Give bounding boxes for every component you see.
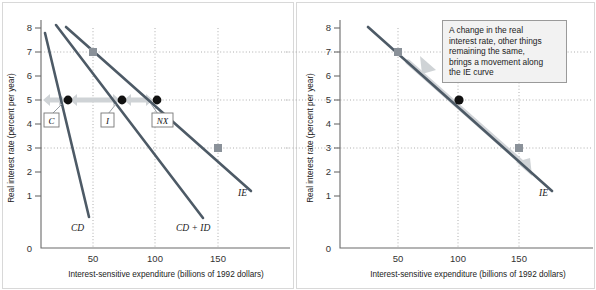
y-axis-title: Real interest rate (percent per year) <box>306 73 315 203</box>
x-axis-title: Interest-sensitive expenditure (billions… <box>370 270 566 279</box>
left-curves <box>45 25 251 218</box>
marker-ie-100-5 <box>153 96 162 105</box>
note-line-4: brings a movement along <box>449 57 560 68</box>
xtick-label-100: 100 <box>147 253 163 264</box>
ytick-label-8: 8 <box>27 22 32 33</box>
ytick-label-2: 2 <box>326 166 331 177</box>
component-label-i: I <box>101 113 114 127</box>
curve-label-cd-id: CD + ID <box>176 223 211 233</box>
ytick-label-5: 5 <box>27 94 32 105</box>
ytick-label-3: 3 <box>326 142 331 153</box>
xtick-label-100: 100 <box>450 253 466 264</box>
note-line-3: remaining the same, <box>449 46 560 57</box>
ytick-label-7: 7 <box>27 46 32 57</box>
marker-ie-50-7 <box>394 48 402 56</box>
ytick-label-1: 1 <box>27 190 32 201</box>
curve-cd-id[interactable] <box>56 25 203 218</box>
curve-label-ie: IE <box>237 188 247 198</box>
component-label-nx: NX <box>152 113 173 127</box>
ytick-label-0: 0 <box>27 243 32 254</box>
left-panel-plot: 8 7 6 5 4 3 2 1 0 50 100 150 Interest-se… <box>0 0 296 290</box>
left-grid <box>41 28 290 248</box>
y-axis-title: Real interest rate (percent per year) <box>7 73 16 203</box>
ytick-label-7: 7 <box>326 46 331 57</box>
component-leaders <box>52 104 158 114</box>
marker-cd-22-5 <box>64 96 73 105</box>
ytick-label-5: 5 <box>326 94 331 105</box>
x-axis-title: Interest-sensitive expenditure (billions… <box>68 270 264 279</box>
ytick-label-2: 2 <box>27 166 32 177</box>
left-axes <box>35 20 290 248</box>
marker-ie-150-3 <box>214 144 222 152</box>
leader-i <box>108 104 116 114</box>
note-line-5: the IE curve <box>449 67 560 78</box>
curve-label-ie: IE <box>538 188 548 198</box>
component-label-c: C <box>44 113 59 127</box>
ytick-label-1: 1 <box>326 190 331 201</box>
marker-ie-50-7 <box>89 48 97 56</box>
right-panel: 8 7 6 5 4 3 2 1 0 50 100 150 Interest-se… <box>296 0 596 290</box>
note-line-1: A change in the real <box>449 25 560 36</box>
label-c: C <box>48 116 55 126</box>
xtick-label-50: 50 <box>393 253 404 264</box>
marker-cdid-65-5 <box>118 96 127 105</box>
note-line-2: interest rate, other things <box>449 36 560 47</box>
ytick-label-8: 8 <box>326 22 331 33</box>
arrow-head-down <box>420 56 436 74</box>
left-panel: 8 7 6 5 4 3 2 1 0 50 100 150 Interest-se… <box>0 0 296 290</box>
marker-ie-100-5 <box>454 95 463 104</box>
leader-c <box>52 104 62 114</box>
ytick-label-4: 4 <box>27 118 32 129</box>
xtick-label-50: 50 <box>88 253 99 264</box>
xtick-label-150: 150 <box>210 253 226 264</box>
marker-ie-150-3 <box>515 144 523 152</box>
ytick-label-4: 4 <box>326 118 331 129</box>
figure-root: 8 7 6 5 4 3 2 1 0 50 100 150 Interest-se… <box>0 0 596 290</box>
ytick-label-6: 6 <box>27 70 32 81</box>
ytick-label-0: 0 <box>326 243 331 254</box>
ytick-label-3: 3 <box>27 142 32 153</box>
curve-label-cd: CD <box>71 223 84 233</box>
note-box: A change in the real interest rate, othe… <box>442 20 567 83</box>
label-nx: NX <box>156 116 169 126</box>
ytick-label-6: 6 <box>326 70 331 81</box>
xtick-label-150: 150 <box>511 253 527 264</box>
